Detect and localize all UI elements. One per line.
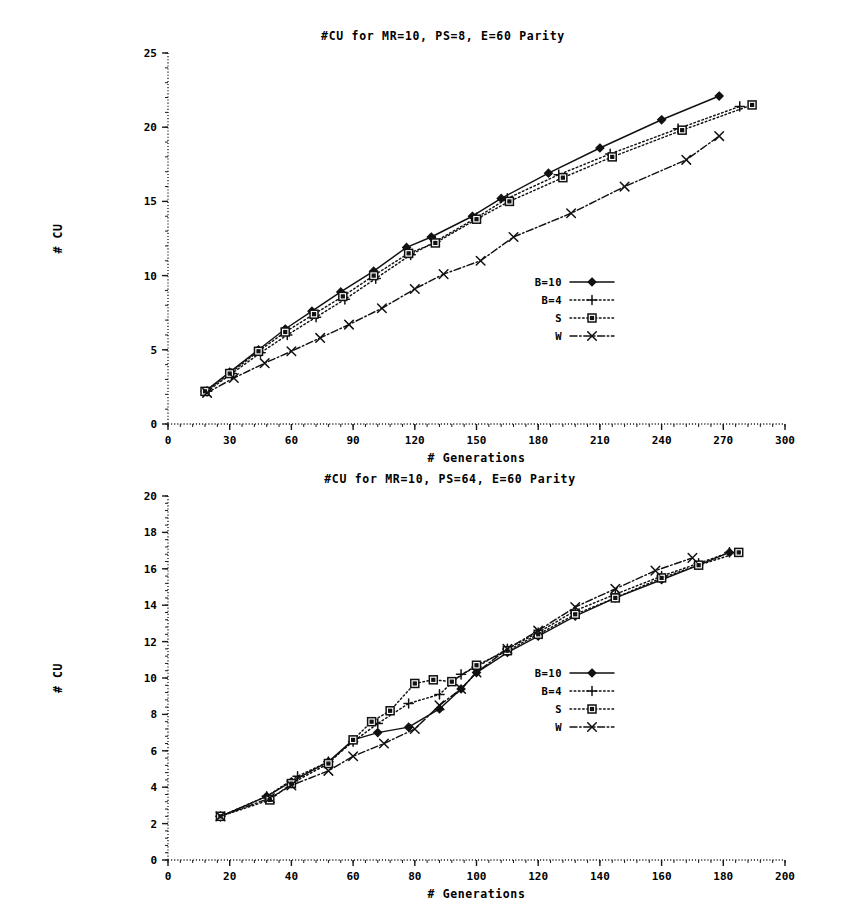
marker-square-center (352, 738, 355, 741)
marker-square-center (611, 155, 614, 158)
y-tick-label: 16 (144, 563, 158, 576)
marker-square-center (737, 551, 740, 554)
marker-cross (682, 156, 691, 165)
marker-square-center (751, 103, 754, 106)
y-tick-label: 2 (150, 818, 157, 831)
x-tick-label: 100 (467, 870, 487, 883)
y-tick-label: 25 (144, 47, 157, 60)
x-tick-label: 120 (528, 870, 548, 883)
y-tick-label: 20 (144, 121, 157, 134)
x-tick-label: 40 (285, 870, 298, 883)
legend-label-S: S (555, 312, 562, 324)
marker-square-center (372, 274, 375, 277)
marker-plus (404, 699, 413, 708)
marker-cross (378, 304, 387, 313)
marker-square-center (432, 678, 435, 681)
marker-cross (439, 270, 448, 279)
marker-filled-diamond (588, 278, 596, 286)
marker-square-center (450, 680, 453, 683)
series-line-B10 (205, 96, 719, 391)
marker-square-center (407, 252, 410, 255)
x-tick-label: 200 (775, 870, 795, 883)
marker-square-center (508, 200, 511, 203)
marker-plus (587, 295, 596, 304)
marker-plus (587, 686, 596, 695)
marker-square-center (389, 709, 392, 712)
marker-square-center (284, 330, 287, 333)
x-tick-label: 140 (590, 870, 610, 883)
legend-label-B10: B=10 (535, 667, 562, 679)
x-tick-label: 0 (165, 870, 172, 883)
chart-title: #CU for MR=10, PS=8, E=60 Parity (321, 29, 565, 43)
marker-cross (411, 725, 420, 734)
marker-square-center (660, 576, 663, 579)
y-tick-label: 15 (144, 195, 157, 208)
marker-cross (509, 233, 518, 242)
marker-square-center (591, 317, 594, 320)
y-tick-label: 10 (144, 270, 157, 283)
legend-label-S: S (555, 703, 562, 715)
marker-cross (380, 739, 389, 748)
legend: B=10B=4SW (535, 276, 614, 342)
marker-cross (316, 334, 325, 343)
y-tick-label: 18 (144, 526, 157, 539)
marker-filled-diamond (596, 144, 604, 152)
marker-square-center (537, 633, 540, 636)
chart-canvas-bottom: #CU for MR=10, PS=64, E=60 Parity0246810… (0, 446, 856, 912)
chart-figure-bottom: #CU for MR=10, PS=64, E=60 Parity0246810… (0, 446, 856, 912)
marker-square-center (327, 762, 330, 765)
x-tick-label: 80 (408, 870, 421, 883)
y-tick-label: 6 (150, 745, 157, 758)
series-B4 (202, 102, 744, 396)
marker-square-center (614, 596, 617, 599)
marker-cross (287, 347, 296, 356)
chart-canvas-top: #CU for MR=10, PS=8, E=60 Parity05101520… (0, 0, 856, 466)
x-axis-title: # Generations (428, 887, 526, 901)
marker-square-center (341, 295, 344, 298)
marker-plus (735, 102, 744, 111)
marker-cross (567, 209, 576, 218)
marker-cross (349, 752, 358, 761)
marker-square-center (370, 720, 373, 723)
legend-label-B4: B=4 (542, 685, 562, 697)
series-B10 (201, 92, 723, 395)
series-line-B4 (207, 106, 740, 391)
marker-square-center (591, 708, 594, 711)
marker-cross (688, 554, 697, 563)
series-S (216, 548, 742, 820)
x-tick-label: 60 (346, 870, 359, 883)
chart-figure-top: #CU for MR=10, PS=8, E=60 Parity05101520… (0, 0, 856, 466)
marker-square-center (561, 176, 564, 179)
x-tick-label: 20 (223, 870, 236, 883)
chart-title: #CU for MR=10, PS=64, E=60 Parity (324, 472, 576, 486)
marker-cross (345, 320, 354, 329)
series-S (201, 101, 756, 395)
marker-square-center (697, 564, 700, 567)
y-tick-label: 20 (144, 490, 157, 503)
marker-filled-diamond (544, 169, 552, 177)
marker-cross (411, 285, 420, 294)
legend-label-B10: B=10 (535, 276, 562, 288)
marker-filled-diamond (374, 729, 382, 737)
legend-label-B4: B=4 (542, 294, 562, 306)
y-tick-label: 0 (150, 418, 157, 431)
y-tick-label: 10 (144, 672, 157, 685)
marker-cross (620, 182, 629, 191)
y-tick-label: 5 (150, 344, 157, 357)
y-axis-title: # CU (51, 663, 65, 693)
marker-square-center (413, 682, 416, 685)
marker-square-center (475, 664, 478, 667)
legend: B=10B=4SW (535, 667, 614, 733)
x-tick-label: 180 (713, 870, 733, 883)
x-tick-label: 160 (652, 870, 672, 883)
marker-filled-diamond (715, 92, 723, 100)
series-line-W (207, 136, 719, 393)
y-axis-title: # CU (51, 223, 65, 253)
y-tick-label: 14 (144, 599, 158, 612)
marker-cross (651, 566, 660, 575)
series-W (203, 132, 724, 397)
marker-square-center (475, 218, 478, 221)
legend-label-W: W (555, 330, 562, 342)
marker-cross (476, 256, 485, 265)
y-tick-label: 4 (150, 781, 157, 794)
